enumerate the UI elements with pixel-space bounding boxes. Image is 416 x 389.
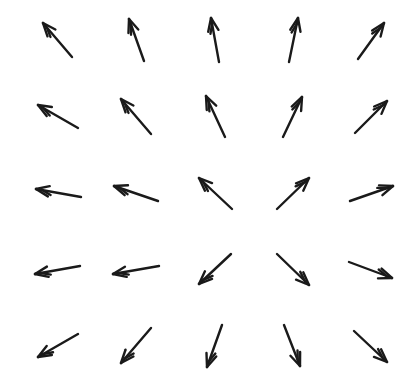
arrow-icon <box>35 266 80 277</box>
arrow-icon <box>206 325 222 367</box>
arrow-icon <box>43 23 72 57</box>
arrow-icon <box>199 254 231 284</box>
arrow-icon <box>38 334 78 357</box>
arrow-icon <box>358 23 384 59</box>
arrow-icon <box>354 331 387 362</box>
arrow-icon <box>277 178 309 209</box>
arrow-icon <box>355 101 387 133</box>
arrow-icon <box>283 97 302 137</box>
arrow-icon <box>206 96 225 137</box>
arrow-icon <box>36 186 81 197</box>
arrow-icon <box>350 185 393 201</box>
arrow-icon <box>277 254 309 285</box>
arrow-icon <box>284 325 300 366</box>
arrow-icon <box>199 178 232 209</box>
arrow-icon <box>113 266 159 277</box>
arrow-icon <box>38 105 78 128</box>
arrow-icon <box>289 18 300 62</box>
arrow-icon <box>114 185 158 201</box>
arrow-icon <box>121 99 151 134</box>
arrow-icon <box>208 18 219 62</box>
arrow-icon <box>349 262 392 278</box>
vector-field-diagram <box>0 0 416 389</box>
arrow-icon <box>121 328 151 363</box>
arrow-icon <box>128 19 144 61</box>
